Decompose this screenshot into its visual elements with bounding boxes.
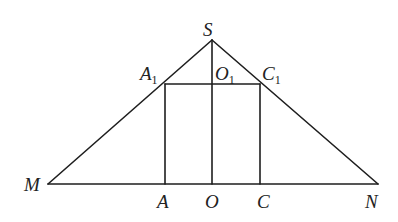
label-O1: O1 (215, 63, 235, 87)
label-S: S (203, 19, 213, 40)
label-N: N (364, 191, 379, 212)
label-C: C (257, 191, 270, 212)
geometry-diagram: S A1 O1 C1 M A O C N (0, 0, 398, 222)
label-O: O (205, 191, 219, 212)
segment-SN (212, 40, 378, 184)
segment-SM (48, 40, 212, 184)
label-C1: C1 (262, 63, 281, 87)
label-A: A (155, 191, 169, 212)
label-A1: A1 (138, 63, 158, 87)
label-M: M (23, 174, 41, 195)
